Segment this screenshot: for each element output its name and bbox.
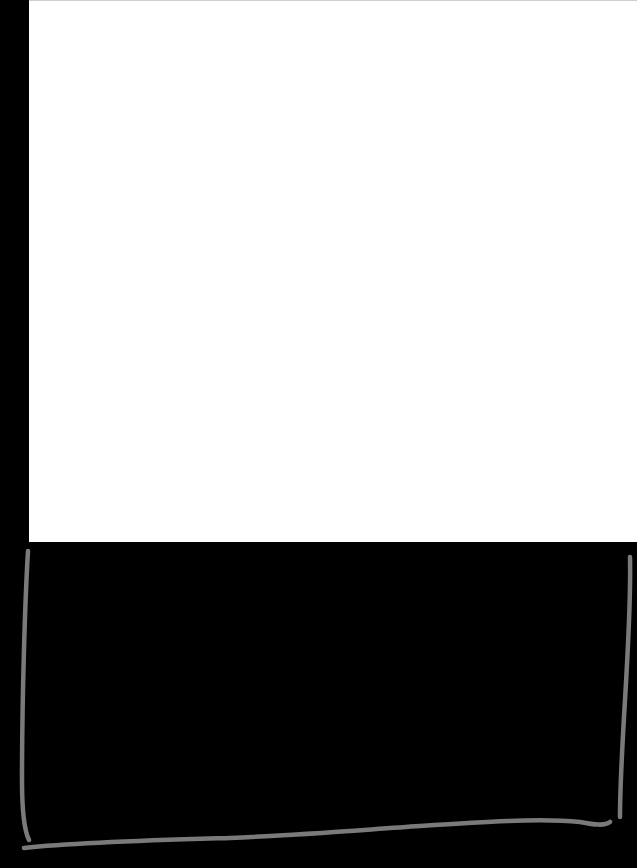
left-stroke <box>22 551 29 840</box>
bottom-stroke <box>24 820 610 848</box>
hand-drawn-bracket <box>0 0 637 868</box>
right-stroke <box>620 557 630 817</box>
